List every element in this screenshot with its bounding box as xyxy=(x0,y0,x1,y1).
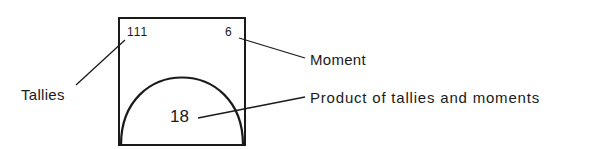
tallies-value: 111 xyxy=(127,26,148,38)
product-label: Product of tallies and moments xyxy=(310,90,540,105)
product-leader-line xyxy=(198,97,305,118)
moment-value: 6 xyxy=(225,26,233,38)
tallies-label: Tallies xyxy=(21,87,65,102)
moment-label: Moment xyxy=(310,52,366,67)
moment-leader-line xyxy=(239,38,305,58)
tallies-leader-line xyxy=(76,40,125,85)
diagram-graphics xyxy=(0,0,599,149)
product-value: 18 xyxy=(170,108,189,125)
